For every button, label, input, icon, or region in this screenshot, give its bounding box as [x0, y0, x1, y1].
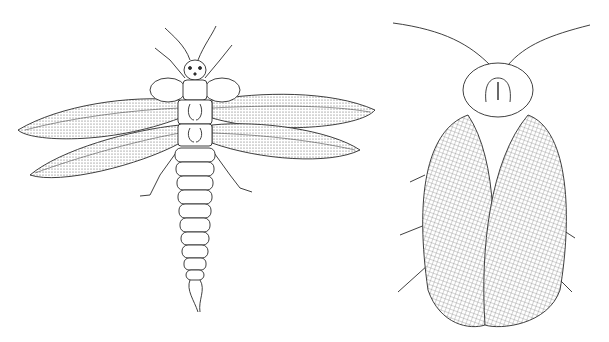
illustration-canvas	[0, 0, 609, 342]
winged-insect-left	[18, 26, 375, 312]
cockroach-right	[393, 23, 590, 327]
insect-illustration	[0, 0, 609, 342]
